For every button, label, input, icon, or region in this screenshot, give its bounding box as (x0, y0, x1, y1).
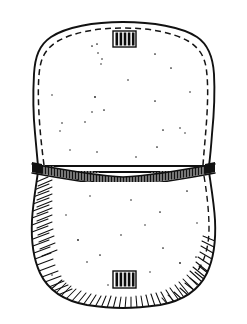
center-band-right-cap (205, 162, 215, 174)
figure-root: Two-part pouch line drawing (0, 0, 247, 324)
center-band-left-cap (32, 162, 42, 174)
pouch-illustration (0, 0, 247, 324)
top-clasp[interactable] (113, 31, 136, 47)
bottom-clasp[interactable] (113, 271, 136, 288)
